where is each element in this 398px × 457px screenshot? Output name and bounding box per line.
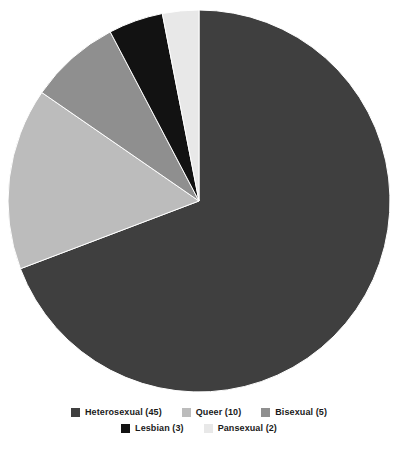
legend-label: Heterosexual (45) bbox=[85, 407, 162, 418]
legend-row: Lesbian (3)Pansexual (2) bbox=[121, 423, 277, 434]
legend-swatch-pansexual bbox=[204, 424, 213, 433]
legend-row: Heterosexual (45)Queer (10)Bisexual (5) bbox=[71, 407, 327, 418]
legend-swatch-bisexual bbox=[261, 408, 270, 417]
legend-swatch-heterosexual bbox=[71, 408, 80, 417]
legend-item-queer[interactable]: Queer (10) bbox=[182, 407, 242, 418]
legend-swatch-queer bbox=[182, 408, 191, 417]
legend-item-lesbian[interactable]: Lesbian (3) bbox=[121, 423, 184, 434]
legend-label: Queer (10) bbox=[196, 407, 242, 418]
legend-item-heterosexual[interactable]: Heterosexual (45) bbox=[71, 407, 162, 418]
legend-label: Pansexual (2) bbox=[218, 423, 277, 434]
legend-swatch-lesbian bbox=[121, 424, 130, 433]
legend-item-pansexual[interactable]: Pansexual (2) bbox=[204, 423, 277, 434]
pie-svg bbox=[0, 0, 398, 400]
chart-legend: Heterosexual (45)Queer (10)Bisexual (5)L… bbox=[0, 404, 398, 457]
legend-label: Lesbian (3) bbox=[135, 423, 184, 434]
pie-chart-figure: Heterosexual (45)Queer (10)Bisexual (5)L… bbox=[0, 0, 398, 457]
pie-plot-area bbox=[0, 0, 398, 400]
legend-item-bisexual[interactable]: Bisexual (5) bbox=[261, 407, 327, 418]
legend-label: Bisexual (5) bbox=[275, 407, 327, 418]
